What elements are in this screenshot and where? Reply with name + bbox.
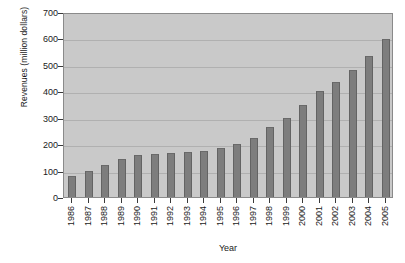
x-tick-label: 1999 <box>281 206 290 226</box>
bar <box>68 176 76 197</box>
y-tick-label: 400 <box>18 88 58 97</box>
bar <box>101 165 109 197</box>
bar <box>316 91 324 197</box>
x-tick-mark <box>88 198 89 203</box>
bar <box>332 82 340 197</box>
bar <box>299 105 307 198</box>
y-tick-label: 600 <box>18 35 58 44</box>
x-tick-label: 1994 <box>199 206 208 226</box>
x-tick-label: 1989 <box>116 206 125 226</box>
x-tick-mark <box>302 198 303 203</box>
x-tick-label: 1992 <box>166 206 175 226</box>
bar <box>250 138 258 197</box>
bar <box>184 152 192 197</box>
plot-area <box>63 13 393 198</box>
y-tick-mark <box>58 198 63 199</box>
x-tick-label: 2001 <box>314 206 323 226</box>
x-tick-mark <box>154 198 155 203</box>
x-tick-label: 2003 <box>347 206 356 226</box>
y-tick-label: 300 <box>18 115 58 124</box>
bar <box>167 153 175 197</box>
x-tick-mark <box>368 198 369 203</box>
x-tick-mark <box>170 198 171 203</box>
bar <box>233 144 241 197</box>
x-tick-mark <box>104 198 105 203</box>
x-tick-label: 1991 <box>149 206 158 226</box>
x-tick-label: 1996 <box>232 206 241 226</box>
bar <box>382 39 390 197</box>
bar <box>200 151 208 198</box>
x-tick-label: 1988 <box>100 206 109 226</box>
x-tick-mark <box>385 198 386 203</box>
x-tick-mark <box>319 198 320 203</box>
x-tick-mark <box>137 198 138 203</box>
bar <box>134 155 142 197</box>
bar-chart-figure: Revenues (million dollars) 0100200300400… <box>0 0 405 263</box>
bar <box>349 70 357 197</box>
x-tick-mark <box>187 198 188 203</box>
x-tick-label: 1995 <box>215 206 224 226</box>
y-tick-label: 500 <box>18 62 58 71</box>
x-tick-mark <box>121 198 122 203</box>
bar <box>151 154 159 197</box>
x-tick-label: 1998 <box>265 206 274 226</box>
x-tick-mark <box>203 198 204 203</box>
bar <box>266 127 274 197</box>
x-axis-title: Year <box>63 243 393 253</box>
x-tick-mark <box>253 198 254 203</box>
x-tick-label: 2000 <box>298 206 307 226</box>
y-tick-label: 100 <box>18 168 58 177</box>
bar <box>85 171 93 197</box>
bars-layer <box>64 14 392 197</box>
bar <box>365 56 373 197</box>
x-tick-mark <box>71 198 72 203</box>
x-tick-label: 1990 <box>133 206 142 226</box>
bar <box>217 148 225 197</box>
x-tick-mark <box>335 198 336 203</box>
x-tick-mark <box>286 198 287 203</box>
bar <box>283 118 291 197</box>
x-tick-label: 2005 <box>380 206 389 226</box>
y-tick-label: 200 <box>18 141 58 150</box>
x-tick-label: 1986 <box>67 206 76 226</box>
x-tick-mark <box>352 198 353 203</box>
bar <box>118 159 126 197</box>
x-tick-label: 1993 <box>182 206 191 226</box>
x-tick-label: 2002 <box>331 206 340 226</box>
y-tick-label: 0 <box>18 194 58 203</box>
x-tick-mark <box>269 198 270 203</box>
x-tick-label: 1987 <box>83 206 92 226</box>
x-tick-mark <box>220 198 221 203</box>
y-tick-label: 700 <box>18 9 58 18</box>
x-tick-label: 2004 <box>364 206 373 226</box>
x-tick-label: 1997 <box>248 206 257 226</box>
x-tick-mark <box>236 198 237 203</box>
